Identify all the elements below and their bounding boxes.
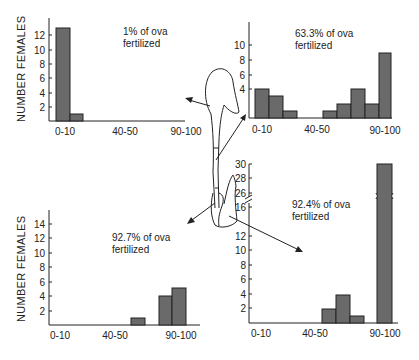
bar-70-80 [351, 89, 365, 118]
bar-90-100 [377, 164, 392, 323]
chart-bottom-left: NUMBER FEMALES 14 12 10 8 6 4 2 0-10 40-… [15, 210, 200, 341]
x-tick-label: 0-10 [252, 124, 272, 135]
svg-text:26: 26 [235, 188, 247, 199]
svg-text:4: 4 [39, 88, 45, 99]
svg-text:2: 2 [240, 303, 246, 314]
bar-50-60 [323, 111, 337, 118]
bar-90-100 [379, 53, 391, 118]
x-tick-label: 40-50 [302, 328, 328, 339]
y-axis-label: NUMBER FEMALES [15, 216, 27, 322]
annotation-line-2: fertilized [295, 40, 332, 51]
bar-80-90 [159, 296, 172, 325]
bar-90-100 [172, 288, 186, 325]
svg-text:10: 10 [234, 40, 246, 51]
y-axis-label: NUMBER FEMALES [15, 16, 27, 122]
annotation-line-1: 92.4% of ova [292, 199, 351, 210]
svg-text:8: 8 [240, 260, 246, 271]
annotation-line-1: 63.3% of ova [295, 28, 354, 39]
bar-60-70 [336, 295, 350, 323]
svg-text:8: 8 [239, 55, 245, 66]
svg-text:10: 10 [34, 248, 46, 259]
bar-50-60 [322, 309, 336, 323]
svg-text:6: 6 [239, 70, 245, 81]
figure-canvas: NUMBER FEMALES 12 10 8 6 4 2 0-10 40-50 … [0, 0, 419, 360]
svg-text:10: 10 [34, 45, 46, 56]
svg-text:14: 14 [34, 219, 46, 230]
x-tick-label: 0-10 [251, 328, 271, 339]
bar-0-10 [56, 28, 70, 121]
svg-text:4: 4 [239, 84, 245, 95]
svg-text:2: 2 [39, 102, 45, 113]
chart-top-right: 10 8 6 4 0-10 40-50 90-100 63.3% of ova … [234, 22, 401, 136]
bar-10-20 [269, 96, 283, 118]
bar-60-70 [131, 318, 145, 325]
annotation-line-2: fertilized [292, 211, 329, 222]
svg-text:8: 8 [39, 59, 45, 70]
x-tick-label: 90-100 [165, 330, 197, 341]
svg-text:16: 16 [235, 202, 247, 213]
svg-text:6: 6 [39, 277, 45, 288]
svg-text:6: 6 [240, 274, 246, 285]
bar-0-10 [255, 89, 269, 118]
bar-70-80 [350, 316, 364, 323]
chart-top-left: NUMBER FEMALES 12 10 8 6 4 2 0-10 40-50 … [15, 16, 202, 137]
svg-text:4: 4 [240, 289, 246, 300]
x-tick-label: 40-50 [304, 124, 330, 135]
x-tick-label: 40-50 [112, 126, 138, 137]
x-tick-label: 90-100 [170, 126, 202, 137]
svg-text:6: 6 [39, 73, 45, 84]
svg-text:12: 12 [34, 233, 46, 244]
annotation-line-2: fertilized [112, 244, 149, 255]
x-tick-label: 40-50 [102, 330, 128, 341]
svg-text:8: 8 [39, 262, 45, 273]
svg-text:4: 4 [39, 291, 45, 302]
annotation-line-1: 92.7% of ova [112, 232, 171, 243]
chart-bottom-right: 30 28 26 16 12 10 8 6 4 2 0-10 40-50 90-… [235, 159, 401, 339]
x-tick-label: 90-100 [369, 125, 401, 136]
x-tick-label: 0-10 [50, 330, 70, 341]
x-tick-label: 90-100 [369, 328, 401, 339]
svg-text:10: 10 [235, 245, 247, 256]
annotation-line-1: 1% of ova [123, 26, 168, 37]
bar-60-70 [337, 104, 351, 118]
x-tick-label: 0-10 [55, 126, 75, 137]
bar-10-20 [70, 114, 83, 121]
bar-80-90 [365, 104, 379, 118]
svg-text:28: 28 [235, 173, 247, 184]
svg-text:2: 2 [39, 306, 45, 317]
svg-text:12: 12 [34, 30, 46, 41]
svg-text:30: 30 [235, 159, 247, 170]
bar-20-30 [283, 111, 297, 118]
annotation-line-2: fertilized [123, 38, 160, 49]
svg-text:12: 12 [235, 231, 247, 242]
